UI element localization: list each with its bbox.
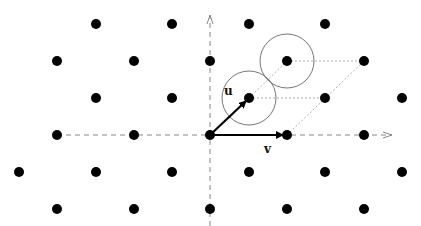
lattice-point bbox=[320, 167, 330, 177]
lattice-point bbox=[359, 204, 369, 214]
lattice-point bbox=[359, 130, 369, 140]
lattice-point bbox=[282, 130, 292, 140]
lattice-point bbox=[205, 56, 215, 66]
lattice-point bbox=[397, 93, 407, 103]
lattice-point bbox=[14, 167, 24, 177]
lattice-point bbox=[91, 93, 101, 103]
lattice-diagram: u v bbox=[0, 0, 421, 226]
lattice-point bbox=[52, 204, 62, 214]
lattice-point bbox=[205, 204, 215, 214]
guide-lines bbox=[249, 61, 364, 135]
lattice-point bbox=[282, 204, 292, 214]
label-u: u bbox=[224, 84, 233, 98]
lattice-point bbox=[244, 167, 254, 177]
label-v: v bbox=[263, 142, 272, 156]
lattice-point bbox=[167, 93, 177, 103]
lattice-point bbox=[52, 130, 62, 140]
lattice-point bbox=[91, 19, 101, 29]
lattice-point bbox=[244, 19, 254, 29]
lattice-point bbox=[129, 56, 139, 66]
lattice-point bbox=[359, 56, 369, 66]
lattice-point bbox=[320, 93, 330, 103]
lattice-point bbox=[397, 167, 407, 177]
lattice-point bbox=[52, 56, 62, 66]
lattice-point bbox=[129, 204, 139, 214]
lattice-point bbox=[167, 19, 177, 29]
lattice-point bbox=[320, 19, 330, 29]
lattice-point bbox=[91, 167, 101, 177]
lattice-point bbox=[167, 167, 177, 177]
vector-u bbox=[210, 101, 246, 135]
lattice-point bbox=[129, 130, 139, 140]
lattice-point bbox=[282, 56, 292, 66]
